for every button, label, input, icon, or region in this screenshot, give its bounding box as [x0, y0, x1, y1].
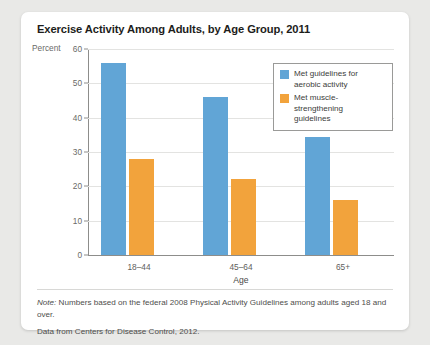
bar	[305, 137, 330, 255]
legend-swatch-aerobic	[280, 70, 289, 79]
legend-item-muscle: Met muscle-strengthening guidelines	[280, 93, 387, 125]
bar	[203, 97, 228, 255]
note-prefix: Note:	[37, 298, 56, 307]
x-tick-label: 65+	[292, 262, 394, 272]
y-tick-label-50: 50	[73, 78, 82, 88]
y-tick-label-0: 0	[77, 250, 82, 260]
legend-label-aerobic: Met guidelines for aerobic activity	[294, 69, 358, 90]
y-tick-label-10: 10	[73, 216, 82, 226]
footnotes: Note: Numbers based on the federal 2008 …	[37, 297, 395, 338]
x-tick-label: 45–64	[190, 262, 292, 272]
legend-item-aerobic: Met guidelines for aerobic activity	[280, 69, 387, 90]
legend-label-muscle-line2: guidelines	[294, 114, 330, 123]
x-axis-label: Age	[88, 275, 394, 285]
bar	[101, 63, 126, 255]
legend-swatch-muscle	[280, 94, 289, 103]
chart-card: Exercise Activity Among Adults, by Age G…	[21, 12, 409, 330]
legend-label-muscle-line1: Met muscle-strengthening	[294, 93, 343, 113]
chart-legend: Met guidelines for aerobic activity Met …	[273, 63, 393, 131]
legend-label-aerobic-line2: aerobic activity	[294, 80, 348, 89]
x-tick-label: 18–44	[88, 262, 190, 272]
y-tick-label-20: 20	[73, 181, 82, 191]
note-body: Numbers based on the federal 2008 Physic…	[37, 298, 386, 319]
bar	[231, 179, 256, 255]
gridline-0: 0	[88, 255, 394, 256]
y-axis-label: Percent	[32, 43, 61, 53]
y-tick-label-60: 60	[73, 44, 82, 54]
bar	[333, 200, 358, 255]
page-title: Exercise Activity Among Adults, by Age G…	[37, 23, 310, 35]
bar-group: 18–44	[88, 49, 190, 255]
y-tick-label-30: 30	[73, 147, 82, 157]
note-text: Note: Numbers based on the federal 2008 …	[37, 297, 395, 320]
legend-label-muscle: Met muscle-strengthening guidelines	[294, 93, 387, 125]
bar	[129, 159, 154, 255]
legend-label-aerobic-line1: Met guidelines for	[294, 69, 358, 78]
footnote-divider	[37, 289, 393, 290]
y-tick-label-40: 40	[73, 113, 82, 123]
source-text: Data from Centers for Disease Control, 2…	[37, 326, 395, 338]
